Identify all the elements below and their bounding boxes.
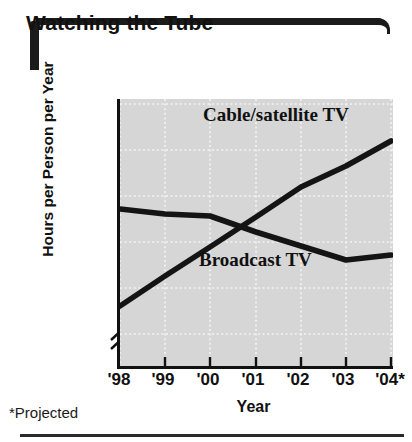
x-axis-label: Year [117, 398, 390, 416]
chart-plot-area: Cable/satellite TV Broadcast TV [117, 99, 393, 369]
bottom-divider [20, 434, 404, 437]
x-tick-02: '02 [287, 370, 310, 390]
footnote-projected: *Projected [9, 404, 78, 421]
x-tick-98: '98 [108, 370, 131, 390]
chart-svg [120, 99, 393, 366]
x-tick-04: '04* [375, 370, 405, 390]
series-label-cable-satellite-tv: Cable/satellite TV [203, 104, 349, 126]
x-tick-01: '01 [242, 370, 265, 390]
x-tick-03: '03 [332, 370, 355, 390]
x-axis-ticks [165, 357, 391, 366]
x-tick-00: '00 [197, 370, 220, 390]
x-tick-99: '99 [152, 370, 175, 390]
y-axis-label: Hours per Person per Year [39, 19, 57, 299]
series-label-broadcast-tv: Broadcast TV [199, 249, 312, 271]
